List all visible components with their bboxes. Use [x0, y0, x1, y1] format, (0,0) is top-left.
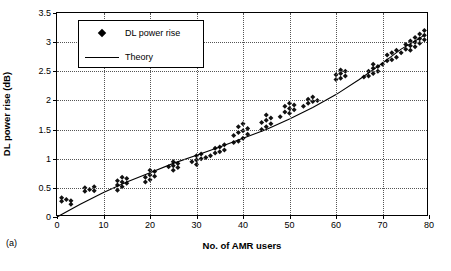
- data-point: [236, 124, 241, 129]
- y-axis-tick: [53, 71, 57, 72]
- x-axis-tick: [336, 215, 337, 219]
- data-point: [301, 104, 306, 109]
- data-point: [282, 104, 287, 109]
- gridline-horizontal: [57, 71, 427, 72]
- x-axis-tick: [290, 215, 291, 219]
- data-point: [143, 180, 148, 185]
- gridline-vertical: [290, 13, 291, 215]
- y-axis-tick-label: 3: [46, 37, 51, 47]
- data-point: [264, 118, 269, 123]
- data-point: [343, 73, 348, 78]
- y-axis-tick: [53, 13, 57, 14]
- data-point: [268, 115, 273, 120]
- data-point: [259, 120, 264, 125]
- x-axis-tick-label: 10: [98, 220, 108, 230]
- y-axis-tick-label: 0: [46, 212, 51, 222]
- data-point: [408, 48, 413, 53]
- data-point: [268, 121, 273, 126]
- data-point: [422, 33, 427, 38]
- data-point: [115, 178, 120, 183]
- data-point: [64, 197, 69, 202]
- chart-legend: DL power rise Theory: [78, 20, 204, 68]
- data-point: [422, 28, 427, 33]
- gridline-vertical: [243, 13, 244, 215]
- y-axis-tick-label: 3.5: [38, 8, 51, 18]
- gridline-vertical: [383, 13, 384, 215]
- data-point: [217, 149, 222, 154]
- x-axis-tick-label: 70: [377, 220, 387, 230]
- x-axis-tick-label: 30: [191, 220, 201, 230]
- data-point: [264, 113, 269, 118]
- data-point: [189, 159, 194, 164]
- gridline-horizontal: [57, 159, 427, 160]
- y-axis-tick-label: 1: [46, 154, 51, 164]
- data-point: [338, 76, 343, 81]
- y-axis-tick: [53, 42, 57, 43]
- legend-item-series-1: DL power rise: [79, 21, 203, 45]
- gridline-horizontal: [57, 188, 427, 189]
- data-point: [59, 195, 64, 200]
- x-axis-tick-label: 0: [54, 220, 59, 230]
- chart-figure: DL power rise (dB) 00.511.522.533.501020…: [0, 0, 451, 271]
- panel-label: (a): [6, 238, 17, 248]
- x-axis-tick-label: 20: [145, 220, 155, 230]
- x-axis-tick: [104, 215, 105, 219]
- data-point: [213, 150, 218, 155]
- x-axis-tick: [243, 215, 244, 219]
- y-axis-tick-label: 0.5: [38, 183, 51, 193]
- data-point: [292, 103, 297, 108]
- gridline-vertical: [336, 13, 337, 215]
- data-point: [385, 52, 390, 57]
- y-axis-tick-label: 2: [46, 95, 51, 105]
- x-axis-tick: [383, 215, 384, 219]
- data-point: [278, 114, 283, 119]
- data-point: [292, 107, 297, 112]
- gridline-horizontal: [57, 130, 427, 131]
- data-point: [171, 168, 176, 173]
- line-marker-icon: [79, 45, 125, 69]
- data-point: [236, 130, 241, 135]
- data-point: [222, 147, 227, 152]
- y-axis-tick-label: 2.5: [38, 66, 51, 76]
- x-axis-tick-label: 40: [238, 220, 248, 230]
- data-point: [68, 198, 73, 203]
- x-axis-tick-label: 50: [284, 220, 294, 230]
- data-point: [371, 62, 376, 67]
- y-axis-tick: [53, 100, 57, 101]
- y-axis-tick-label: 1.5: [38, 125, 51, 135]
- y-axis-tick: [53, 159, 57, 160]
- y-axis-title: DL power rise (dB): [1, 72, 12, 156]
- data-point: [310, 94, 315, 99]
- data-point: [152, 174, 157, 179]
- data-point: [208, 153, 213, 158]
- data-point: [120, 175, 125, 180]
- diamond-marker-icon: [79, 21, 125, 45]
- legend-label-series-2: Theory: [125, 52, 153, 62]
- x-axis-title: No. of AMR users: [56, 240, 428, 251]
- y-axis-tick: [53, 188, 57, 189]
- x-axis-tick-label: 80: [424, 220, 434, 230]
- data-point: [124, 176, 129, 181]
- x-axis-tick: [150, 215, 151, 219]
- legend-item-series-2: Theory: [79, 45, 203, 69]
- legend-label-series-1: DL power rise: [125, 28, 180, 38]
- gridline-horizontal: [57, 100, 427, 101]
- data-point: [413, 44, 418, 49]
- y-axis-tick: [53, 130, 57, 131]
- x-axis-tick: [57, 215, 58, 219]
- x-axis-tick: [429, 215, 430, 219]
- data-point: [231, 133, 236, 138]
- data-point: [413, 35, 418, 40]
- data-point: [282, 110, 287, 115]
- data-point: [394, 55, 399, 60]
- x-axis-tick: [197, 215, 198, 219]
- x-axis-tick-label: 60: [331, 220, 341, 230]
- data-point: [417, 31, 422, 36]
